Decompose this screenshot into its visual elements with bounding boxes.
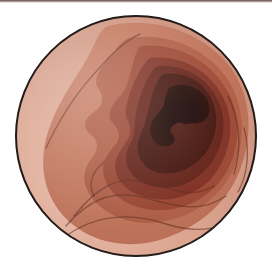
endoscopy-illustration (0, 0, 272, 272)
illustration-canvas: Endoscopic view of intestinal lumen Oute… (0, 0, 272, 272)
